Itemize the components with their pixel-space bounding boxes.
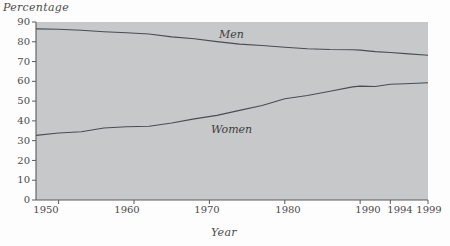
y-tick-label-80: 80 (8, 36, 30, 47)
x-tick-label-1970: 1970 (187, 204, 227, 215)
y-tick-label-20: 20 (8, 155, 30, 166)
y-tick-label-90: 90 (8, 16, 30, 27)
series-label-men: Men (219, 28, 244, 41)
x-tick-label-1950: 1950 (26, 204, 66, 215)
x-tick-label-1960: 1960 (107, 204, 147, 215)
chart-figure: Percentage 90 80 70 60 50 40 30 20 10 0 … (0, 0, 450, 246)
x-tick-label-1980: 1980 (268, 204, 308, 215)
series-label-women: Women (211, 123, 252, 136)
y-tick-label-70: 70 (8, 56, 30, 67)
plot-background-group (36, 22, 428, 200)
y-tick-label-60: 60 (8, 75, 30, 86)
y-tick-label-50: 50 (8, 95, 30, 106)
x-tick-label-1999: 1999 (409, 204, 449, 215)
y-tick-label-10: 10 (8, 174, 30, 185)
y-axis-ticks (32, 22, 36, 200)
plot-background (36, 22, 428, 200)
y-tick-label-30: 30 (8, 135, 30, 146)
x-axis-title: Year (211, 226, 237, 239)
y-tick-label-40: 40 (8, 115, 30, 126)
